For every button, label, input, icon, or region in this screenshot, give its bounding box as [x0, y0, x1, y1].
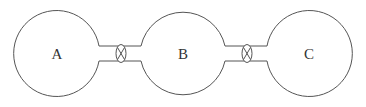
label-a: A — [52, 46, 63, 62]
valve-a-b-icon[interactable] — [116, 45, 126, 63]
label-b: B — [178, 46, 188, 62]
bulb-b-lower — [141, 61, 225, 95]
label-c: C — [304, 46, 314, 62]
diagram-canvas: A B C — [0, 0, 366, 107]
valve-b-c-icon[interactable] — [242, 45, 252, 63]
bulb-b — [141, 12, 225, 46]
